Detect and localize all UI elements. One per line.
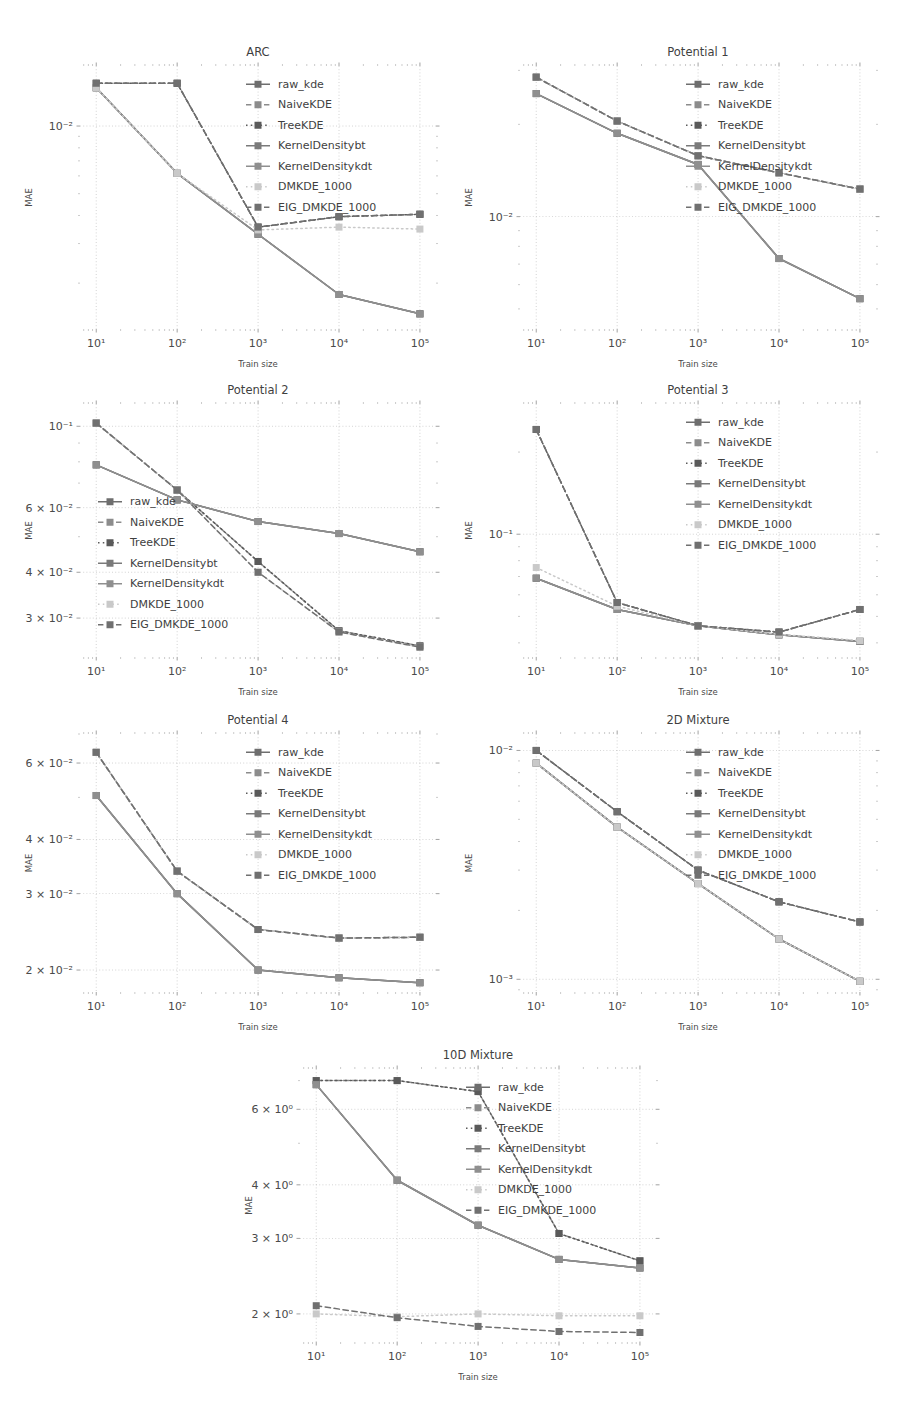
data-point xyxy=(636,1257,643,1264)
data-point xyxy=(394,1177,401,1184)
y-tick-labels: 10⁻² xyxy=(49,120,73,133)
legend-label-KernelDensitybt: KernelDensitybt xyxy=(718,139,806,152)
y-axis-label: MAE xyxy=(464,188,474,207)
y-tick-label: 10⁻² xyxy=(489,211,513,224)
legend-marker xyxy=(475,1186,482,1193)
legend-marker xyxy=(255,851,262,858)
legend-marker xyxy=(695,439,702,446)
data-point xyxy=(255,558,262,565)
x-tick-label: 10⁴ xyxy=(770,337,789,350)
series-line-KernelDensitybt xyxy=(316,1085,640,1268)
x-tick-labels: 10¹10²10³10⁴10⁵ xyxy=(87,1000,429,1013)
legend: raw_kdeNaiveKDETreeKDEKernelDensitybtKer… xyxy=(686,416,816,552)
y-tick-label: 10⁻² xyxy=(489,744,513,757)
legend-marker xyxy=(255,810,262,817)
x-tick-labels: 10¹10²10³10⁴10⁵ xyxy=(527,337,869,350)
legend-marker xyxy=(255,101,262,108)
data-point xyxy=(336,224,343,231)
legend-marker xyxy=(695,101,702,108)
y-axis-label: MAE xyxy=(24,521,34,540)
y-tick-label: 10⁻³ xyxy=(489,973,513,986)
series-line-DMKDE_1000 xyxy=(536,568,860,641)
legend-marker xyxy=(695,81,702,88)
legend-label-EIG_DMKDE_1000: EIG_DMKDE_1000 xyxy=(718,869,816,882)
x-tick-label: 10⁵ xyxy=(851,337,869,350)
data-point xyxy=(93,80,100,87)
legend-marker xyxy=(475,1104,482,1111)
legend-marker xyxy=(107,498,114,505)
panel-potential-1: Potential 110¹10²10³10⁴10⁵10⁻²Train size… xyxy=(458,42,890,377)
chart-1: Potential 110¹10²10³10⁴10⁵10⁻²Train size… xyxy=(458,42,890,377)
data-point xyxy=(93,792,100,799)
legend-label-NaiveKDE: NaiveKDE xyxy=(278,766,332,779)
data-point xyxy=(614,599,621,606)
chart-6: 10D Mixture10¹10²10³10⁴10⁵6 × 10⁰4 × 10⁰… xyxy=(238,1045,670,1390)
data-point xyxy=(475,1222,482,1229)
legend-marker xyxy=(255,142,262,149)
legend-marker xyxy=(475,1084,482,1091)
legend-label-KernelDensitybt: KernelDensitybt xyxy=(130,557,218,570)
legend-marker xyxy=(255,183,262,190)
data-point xyxy=(174,170,181,177)
legend-label-KernelDensitybt: KernelDensitybt xyxy=(278,807,366,820)
data-point xyxy=(313,1310,320,1317)
legend-marker xyxy=(695,749,702,756)
legend-label-TreeKDE: TreeKDE xyxy=(129,536,176,549)
x-tick-label: 10³ xyxy=(689,337,707,350)
data-point xyxy=(556,1230,563,1237)
x-axis-label: Train size xyxy=(457,1372,498,1382)
x-tick-label: 10¹ xyxy=(87,665,105,678)
y-axis-label: MAE xyxy=(464,521,474,540)
legend-marker xyxy=(107,539,114,546)
y-tick-label: 6 × 10⁻² xyxy=(26,757,73,770)
legend-marker xyxy=(695,769,702,776)
legend-label-EIG_DMKDE_1000: EIG_DMKDE_1000 xyxy=(718,201,816,214)
chart-0: ARC10¹10²10³10⁴10⁵10⁻²Train sizeMAEraw_k… xyxy=(18,42,450,377)
x-tick-label: 10¹ xyxy=(307,1350,325,1363)
x-tick-label: 10² xyxy=(608,337,626,350)
legend-label-EIG_DMKDE_1000: EIG_DMKDE_1000 xyxy=(278,201,376,214)
y-axis-label: MAE xyxy=(24,188,34,207)
y-axis-label: MAE xyxy=(244,1196,254,1215)
legend-marker xyxy=(255,81,262,88)
legend: raw_kdeNaiveKDETreeKDEKernelDensitybtKer… xyxy=(686,78,816,214)
data-point xyxy=(695,152,702,159)
data-point xyxy=(856,978,863,985)
x-tick-labels: 10¹10²10³10⁴10⁵ xyxy=(87,665,429,678)
data-point xyxy=(416,211,423,218)
legend-label-TreeKDE: TreeKDE xyxy=(717,119,764,132)
x-tick-label: 10⁴ xyxy=(330,1000,349,1013)
data-point xyxy=(336,213,343,220)
x-tick-label: 10³ xyxy=(249,337,267,350)
chart-4: Potential 410¹10²10³10⁴10⁵6 × 10⁻²4 × 10… xyxy=(18,710,450,1040)
x-tick-label: 10⁴ xyxy=(770,665,789,678)
data-point xyxy=(255,967,262,974)
legend-label-KernelDensitykdt: KernelDensitykdt xyxy=(130,577,225,590)
legend-label-KernelDensitykdt: KernelDensitykdt xyxy=(278,828,373,841)
legend-marker xyxy=(255,204,262,211)
legend-marker xyxy=(255,163,262,170)
data-point xyxy=(313,1302,320,1309)
x-tick-labels: 10¹10²10³10⁴10⁵ xyxy=(527,1000,869,1013)
y-tick-label: 3 × 10⁻² xyxy=(26,612,73,625)
data-point xyxy=(336,530,343,537)
legend-label-raw_kde: raw_kde xyxy=(718,78,764,91)
data-point xyxy=(174,487,181,494)
legend-label-EIG_DMKDE_1000: EIG_DMKDE_1000 xyxy=(498,1204,596,1217)
legend-marker xyxy=(695,183,702,190)
data-point xyxy=(776,898,783,905)
x-tick-label: 10⁵ xyxy=(411,1000,429,1013)
data-point xyxy=(856,186,863,193)
x-tick-label: 10³ xyxy=(249,665,267,678)
data-point xyxy=(695,880,702,887)
legend-marker xyxy=(255,122,262,129)
data-point xyxy=(174,868,181,875)
data-point xyxy=(93,749,100,756)
data-point xyxy=(533,74,540,81)
x-tick-label: 10³ xyxy=(689,665,707,678)
legend-label-EIG_DMKDE_1000: EIG_DMKDE_1000 xyxy=(130,618,228,631)
data-point xyxy=(93,420,100,427)
legend-marker xyxy=(695,480,702,487)
data-point xyxy=(174,890,181,897)
legend-label-KernelDensitykdt: KernelDensitykdt xyxy=(278,160,373,173)
